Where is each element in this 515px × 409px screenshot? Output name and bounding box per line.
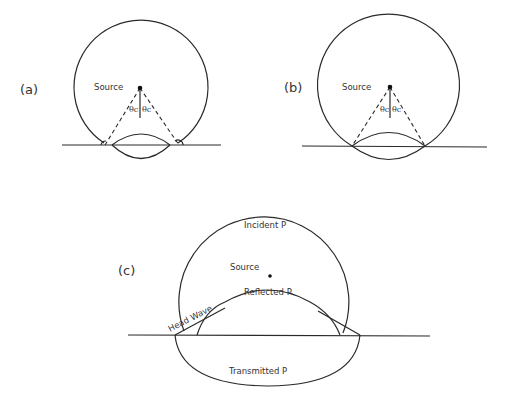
incident-wavefront: [318, 14, 460, 146]
critical-ray-right: [390, 87, 425, 146]
reflected-label: Reflected P: [244, 287, 292, 297]
theta-c-right: θc: [142, 105, 152, 114]
transmitted-label: Transmitted P: [228, 366, 287, 376]
theta-c-right: θc: [392, 105, 402, 114]
theta-c-left: θc: [380, 105, 390, 114]
source-label: Source: [94, 82, 123, 92]
transmitted-wavefront: [352, 146, 425, 160]
panel-c-label: (c): [118, 263, 135, 278]
panel-a: (a) Source θc θc: [20, 20, 221, 158]
source-point: [388, 85, 393, 90]
transmitted-wavefront: [175, 335, 360, 386]
source-label: Source: [342, 82, 371, 92]
panel-c: (c) Incident P Source Reflected P Head W…: [118, 217, 430, 386]
critical-ray-left: [352, 87, 390, 146]
incident-label: Incident P: [244, 220, 286, 230]
reflected-wavefront: [112, 134, 170, 145]
source-label: Source: [230, 262, 259, 272]
panel-b-label: (b): [284, 80, 302, 95]
interface-line: [128, 335, 430, 336]
critical-ray-right: [140, 88, 179, 145]
wavefront-diagram: (a) Source θc θc (b) Source θc θc: [0, 0, 515, 409]
interface-line: [302, 146, 487, 147]
panel-a-label: (a): [20, 82, 38, 97]
source-point: [138, 86, 143, 91]
source-point: [268, 274, 272, 278]
reflected-wavefront: [352, 133, 425, 147]
theta-c-left: θc: [129, 105, 139, 114]
critical-ray-left: [105, 88, 140, 145]
panel-b: (b) Source θc θc: [284, 14, 487, 159]
transmitted-wavefront: [112, 145, 170, 159]
